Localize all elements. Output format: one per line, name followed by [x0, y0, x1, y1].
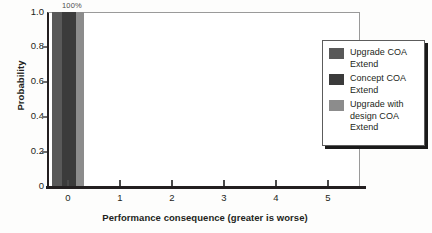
y-tick-label: 0.2	[14, 146, 44, 156]
bar-group	[47, 12, 360, 186]
legend-label: Concept COA Extend	[350, 73, 419, 96]
chart-legend: Upgrade COA Extend Concept COA Extend Up…	[322, 40, 425, 146]
x-tick-label: 0	[58, 192, 78, 203]
x-tick-label: 5	[318, 192, 338, 203]
y-tick-label: 0.6	[14, 76, 44, 86]
bar-value-label: 100%	[52, 1, 92, 10]
legend-item: Upgrade COA Extend	[329, 47, 419, 70]
x-tick-mark	[327, 180, 329, 186]
x-tick-mark	[119, 180, 121, 186]
legend-label: Upgrade with design COA Extend	[350, 99, 419, 134]
y-tick-label: 0.4	[14, 111, 44, 121]
x-tick-mark	[67, 180, 69, 186]
legend-swatch-icon	[329, 74, 344, 85]
y-tick-label: 1.0	[14, 7, 44, 17]
bar-upgrade-coa-extend	[52, 12, 62, 186]
legend-swatch-icon	[329, 48, 344, 59]
x-tick-mark	[223, 180, 225, 186]
x-tick-label: 2	[162, 192, 182, 203]
x-tick-mark	[275, 180, 277, 186]
x-tick-mark	[171, 180, 173, 186]
y-tick-label: 0.8	[14, 41, 44, 51]
x-axis-line	[46, 186, 366, 189]
x-tick-label: 1	[110, 192, 130, 203]
legend-item: Concept COA Extend	[329, 73, 419, 96]
y-tick-label: 0	[14, 181, 44, 191]
x-axis-title: Performance consequence (greater is wors…	[45, 212, 365, 223]
bar-upgrade-with-design-coa-extend	[76, 12, 84, 186]
legend-swatch-icon	[329, 100, 344, 111]
y-tick-label-group: 1.0 0.8 0.6 0.4 0.2 0	[8, 0, 44, 233]
x-tick-label: 4	[266, 192, 286, 203]
x-tick-label: 3	[214, 192, 234, 203]
chart-figure: Probability 1.0 0.8 0.6 0.4 0.2 0 100% 0…	[0, 0, 432, 233]
legend-item: Upgrade with design COA Extend	[329, 99, 419, 134]
legend-label: Upgrade COA Extend	[350, 47, 419, 70]
bar-concept-coa-extend	[62, 12, 76, 186]
